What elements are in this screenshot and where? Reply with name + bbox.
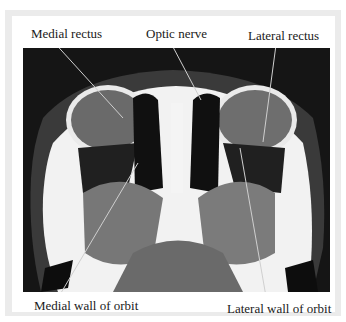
label-lateral-wall-of-orbit: Lateral wall of orbit [227,302,331,315]
ct-scan-graphic [23,48,330,292]
label-medial-rectus: Medial rectus [31,27,102,40]
label-optic-nerve: Optic nerve [146,27,207,40]
label-medial-wall-of-orbit: Medial wall of orbit [34,299,138,312]
label-lateral-rectus: Lateral rectus [248,29,319,42]
ct-scan-image [23,48,330,292]
